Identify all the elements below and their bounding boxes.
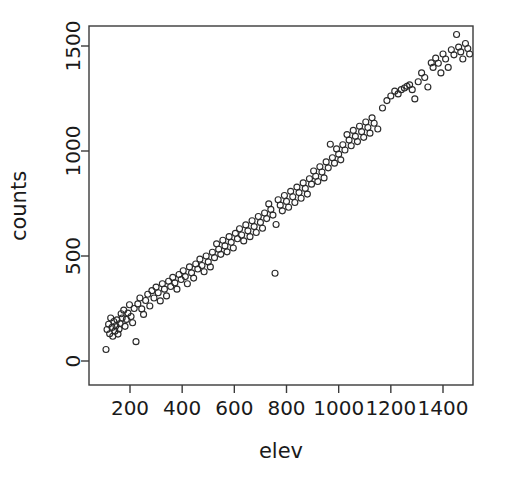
data-point: [199, 262, 205, 268]
data-point: [375, 126, 381, 132]
data-point: [445, 64, 451, 70]
data-point: [130, 320, 136, 326]
data-point: [367, 130, 373, 136]
x-tick-label: 200: [111, 396, 149, 420]
data-point: [224, 249, 230, 255]
data-point: [197, 256, 203, 262]
data-point: [279, 208, 285, 214]
y-tick-label: 1500: [61, 21, 85, 72]
data-point: [147, 303, 153, 309]
data-point: [137, 295, 143, 301]
y-axis: 050010001500: [61, 21, 89, 368]
data-point: [348, 143, 354, 149]
data-point: [323, 159, 329, 165]
data-point: [255, 214, 261, 220]
data-point: [435, 60, 441, 66]
data-point: [286, 204, 292, 210]
x-tick-label: 1000: [313, 396, 364, 420]
data-point: [241, 238, 247, 244]
data-point: [184, 281, 190, 287]
data-point: [103, 346, 109, 352]
plot-canvas: 200400600800100012001400 050010001500 el…: [0, 0, 510, 480]
data-point: [467, 51, 473, 57]
data-point: [122, 323, 128, 329]
data-point: [207, 264, 213, 270]
data-point: [321, 175, 327, 181]
y-tick-label: 1000: [61, 126, 85, 177]
x-axis: 200400600800100012001400: [111, 385, 469, 420]
data-point: [237, 226, 243, 232]
data-point: [454, 31, 460, 37]
data-point: [164, 293, 170, 299]
data-point: [251, 224, 257, 230]
data-point: [309, 181, 315, 187]
data-point: [460, 56, 466, 62]
data-point: [371, 120, 377, 126]
data-point: [422, 75, 428, 81]
data-point: [257, 219, 263, 225]
x-axis-title: elev: [259, 439, 303, 463]
data-point: [438, 70, 444, 76]
data-point: [350, 127, 356, 133]
data-point: [218, 251, 224, 257]
x-tick-label: 800: [267, 396, 305, 420]
data-points-layer: [103, 31, 473, 352]
x-tick-label: 400: [163, 396, 201, 420]
y-tick-label: 500: [61, 237, 85, 275]
data-point: [161, 286, 167, 292]
data-point: [253, 229, 259, 235]
data-point: [245, 228, 251, 234]
x-tick-label: 1200: [365, 396, 416, 420]
data-point: [230, 245, 236, 251]
data-point: [325, 165, 331, 171]
scatter-plot-figure: 200400600800100012001400 050010001500 el…: [0, 0, 510, 480]
data-point: [155, 290, 161, 296]
data-point: [412, 96, 418, 102]
data-point: [178, 277, 184, 283]
data-point: [260, 225, 266, 231]
data-point: [186, 264, 192, 270]
data-point: [409, 87, 415, 93]
x-tick-label: 1400: [418, 396, 469, 420]
data-point: [201, 269, 207, 275]
data-point: [249, 218, 255, 224]
data-point: [342, 147, 348, 153]
data-point: [281, 193, 287, 199]
data-point: [174, 286, 180, 292]
data-point: [272, 270, 278, 276]
data-point: [284, 198, 290, 204]
data-point: [304, 191, 310, 197]
data-point: [191, 275, 197, 281]
data-point: [180, 268, 186, 274]
data-point: [415, 79, 421, 85]
data-point: [182, 274, 188, 280]
y-tick-label: 0: [61, 355, 85, 368]
data-point: [292, 199, 298, 205]
data-point: [270, 212, 276, 218]
data-point: [298, 195, 304, 201]
data-point: [338, 157, 344, 163]
data-point: [315, 178, 321, 184]
data-point: [264, 216, 270, 222]
data-point: [425, 84, 431, 90]
data-point: [354, 139, 360, 145]
data-point: [143, 298, 149, 304]
data-point: [443, 56, 449, 62]
data-point: [133, 339, 139, 345]
data-point: [273, 222, 279, 228]
data-point: [243, 222, 249, 228]
data-point: [157, 298, 163, 304]
data-point: [222, 243, 228, 249]
data-point: [172, 280, 178, 286]
data-point: [203, 253, 209, 259]
y-axis-title: counts: [7, 171, 31, 241]
data-point: [319, 169, 325, 175]
data-point: [151, 295, 157, 301]
data-point: [141, 311, 147, 317]
x-tick-label: 600: [215, 396, 253, 420]
data-point: [361, 134, 367, 140]
data-point: [247, 234, 253, 240]
data-point: [379, 105, 385, 111]
data-point: [327, 141, 333, 147]
data-point: [331, 160, 337, 166]
